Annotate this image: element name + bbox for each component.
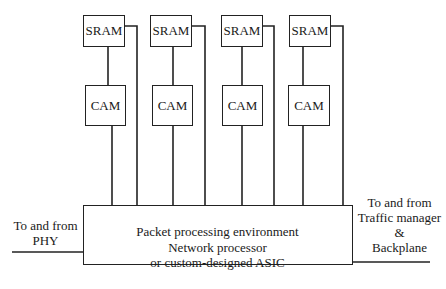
main-line-2: Network processor xyxy=(83,240,352,256)
main-line-3: or custom-designed ASIC xyxy=(83,255,352,271)
phy-line-2: PHY xyxy=(8,233,83,248)
cam-block-4: CAM xyxy=(288,85,330,126)
backplane-line-1: To and from xyxy=(353,195,446,210)
sram-block-1: SRAM xyxy=(83,15,125,47)
backplane-line-3: & xyxy=(353,225,446,240)
backplane-line-2: Traffic manager xyxy=(353,210,446,225)
cam-block-2: CAM xyxy=(152,85,193,126)
phy-line-1: To and from xyxy=(8,218,83,233)
backplane-line-4: Backplane xyxy=(353,240,446,255)
packet-processing-label: Packet processing environment Network pr… xyxy=(83,224,352,271)
phy-interface-label: To and from PHY xyxy=(8,218,83,248)
cam-block-3: CAM xyxy=(222,85,263,126)
backplane-interface-label: To and from Traffic manager & Backplane xyxy=(353,195,446,255)
sram-block-4: SRAM xyxy=(289,15,331,47)
sram-block-2: SRAM xyxy=(150,15,192,47)
sram-block-3: SRAM xyxy=(221,15,263,47)
main-line-1: Packet processing environment xyxy=(83,224,352,240)
cam-block-1: CAM xyxy=(85,85,126,126)
